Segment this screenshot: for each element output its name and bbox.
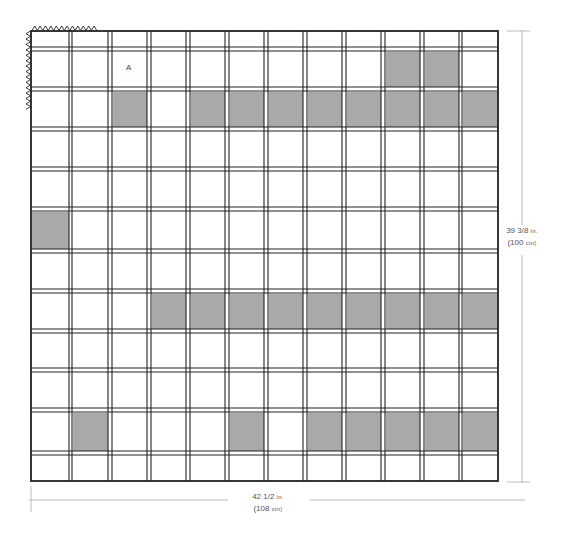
- width-metric-unit: cm): [272, 506, 283, 512]
- fringe-edge: [26, 26, 97, 109]
- shaded-cell: [347, 92, 381, 127]
- shaded-cell: [463, 294, 498, 329]
- shaded-cell: [191, 92, 225, 127]
- shaded-cell: [191, 294, 225, 329]
- shaded-cell: [425, 294, 459, 329]
- width-imperial-unit: in.: [277, 494, 284, 500]
- cell-label-a: A: [126, 63, 131, 72]
- shaded-cell: [386, 294, 420, 329]
- shaded-cell: [386, 52, 420, 87]
- width-metric-value: (108: [253, 504, 269, 513]
- height-dimension-label: 39 3/8 in. (100 cm): [500, 225, 544, 249]
- shaded-cell: [386, 92, 420, 127]
- width-imperial-value: 42 1/2: [252, 492, 274, 501]
- shaded-cell: [463, 413, 498, 451]
- width-dimension-label: 42 1/2 in. (108 cm): [228, 491, 308, 515]
- shaded-cell: [463, 92, 498, 127]
- height-metric: (100 cm): [500, 237, 544, 249]
- height-metric-value: (100: [507, 238, 523, 247]
- shaded-cell: [73, 413, 108, 451]
- height-imperial-value: 39 3/8: [506, 226, 528, 235]
- shaded-cell: [152, 294, 186, 329]
- shaded-cell: [308, 294, 342, 329]
- shaded-cell: [308, 92, 342, 127]
- shaded-cell: [347, 413, 381, 451]
- grid-schematic: [0, 0, 565, 539]
- height-imperial-unit: in.: [531, 228, 538, 234]
- shaded-cell: [308, 413, 342, 451]
- shaded-cell: [230, 294, 264, 329]
- shaded-cell: [425, 413, 459, 451]
- shaded-cell: [230, 413, 264, 451]
- shaded-cell: [425, 92, 459, 127]
- shaded-cell: [113, 92, 147, 127]
- height-imperial: 39 3/8 in.: [500, 225, 544, 237]
- width-imperial: 42 1/2 in.: [228, 491, 308, 503]
- shaded-cell: [347, 294, 381, 329]
- shaded-cell: [269, 92, 303, 127]
- shaded-cell: [425, 52, 459, 87]
- shaded-cell: [32, 212, 69, 249]
- shaded-cell: [230, 92, 264, 127]
- shaded-cell: [386, 413, 420, 451]
- height-metric-unit: cm): [526, 240, 537, 246]
- shaded-cell: [269, 294, 303, 329]
- width-metric: (108 cm): [228, 503, 308, 515]
- shaded-cells: [32, 52, 498, 451]
